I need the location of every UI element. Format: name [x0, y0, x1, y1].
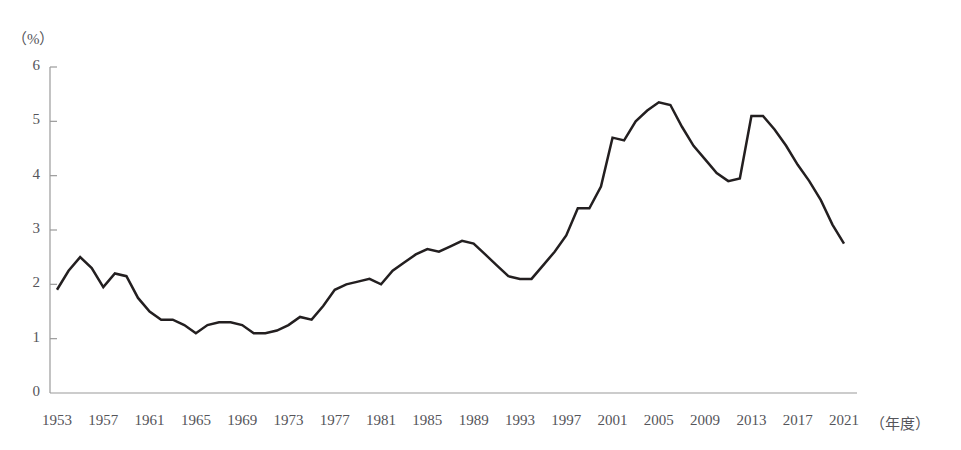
y-tick-label: 4 [14, 166, 40, 183]
x-tick-label: 1965 [172, 412, 220, 429]
line-chart: （%） 0123456 1953195719611965196919731977… [0, 0, 961, 450]
y-tick-label: 5 [14, 111, 40, 128]
x-tick-label: 1981 [357, 412, 405, 429]
y-tick-label: 3 [14, 220, 40, 237]
x-tick-label: 1973 [264, 412, 312, 429]
data-series-line [57, 102, 844, 333]
axis-ticks [50, 67, 57, 339]
chart-canvas [0, 0, 961, 450]
x-tick-label: 2017 [774, 412, 822, 429]
x-tick-label: 2021 [820, 412, 868, 429]
x-tick-label: 1985 [403, 412, 451, 429]
y-tick-label: 6 [14, 57, 40, 74]
x-tick-label: 1989 [450, 412, 498, 429]
x-tick-label: 2001 [589, 412, 637, 429]
x-tick-label: 1977 [311, 412, 359, 429]
y-tick-label: 2 [14, 274, 40, 291]
y-tick-label: 1 [14, 329, 40, 346]
x-tick-label: 1969 [218, 412, 266, 429]
x-tick-label: 1993 [496, 412, 544, 429]
x-tick-label: 2013 [727, 412, 775, 429]
x-tick-label: 2005 [635, 412, 683, 429]
x-tick-label: 1997 [542, 412, 590, 429]
x-tick-label: 2009 [681, 412, 729, 429]
x-axis-title: （年度） [870, 412, 930, 433]
axis-lines [50, 67, 857, 393]
x-tick-label: 1957 [79, 412, 127, 429]
x-tick-label: 1953 [33, 412, 81, 429]
x-tick-label: 1961 [126, 412, 174, 429]
y-tick-label: 0 [14, 383, 40, 400]
